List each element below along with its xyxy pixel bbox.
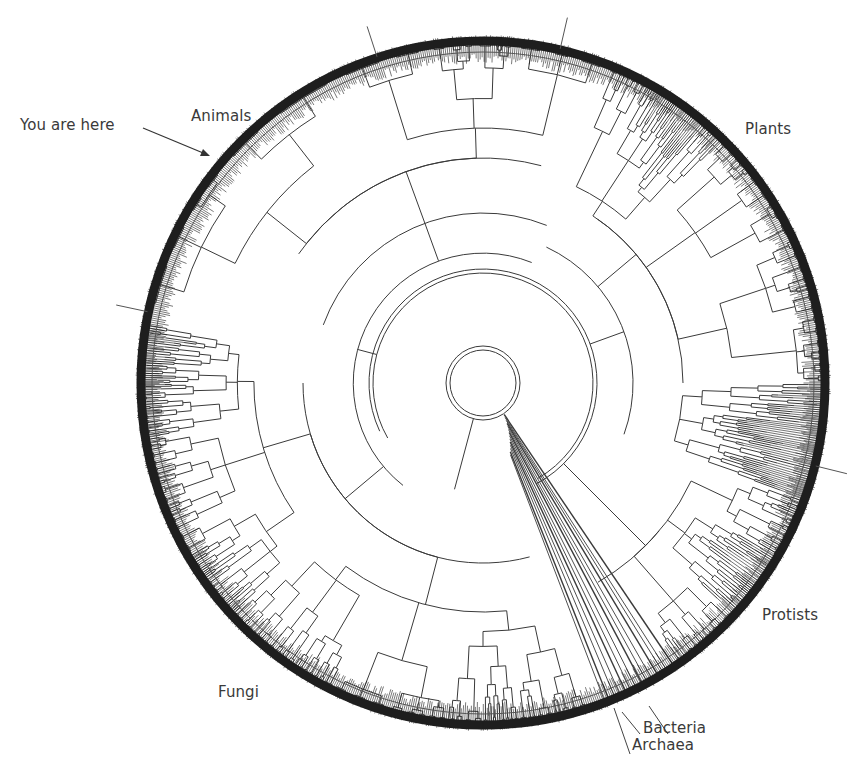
label-bacteria: Bacteria (643, 719, 706, 737)
label-archaea: Archaea (632, 736, 694, 754)
you-are-here-arrow-icon (143, 128, 210, 156)
label-fungi: Fungi (218, 683, 259, 701)
label-plants: Plants (745, 120, 791, 138)
label-you-are-here: You are here (20, 116, 115, 134)
clade-boundary-ticks (116, 18, 847, 474)
label-animals: Animals (191, 107, 251, 125)
label-protists: Protists (762, 606, 818, 624)
leaf-ring (135, 35, 830, 731)
phylogenetic-tree (0, 0, 864, 778)
